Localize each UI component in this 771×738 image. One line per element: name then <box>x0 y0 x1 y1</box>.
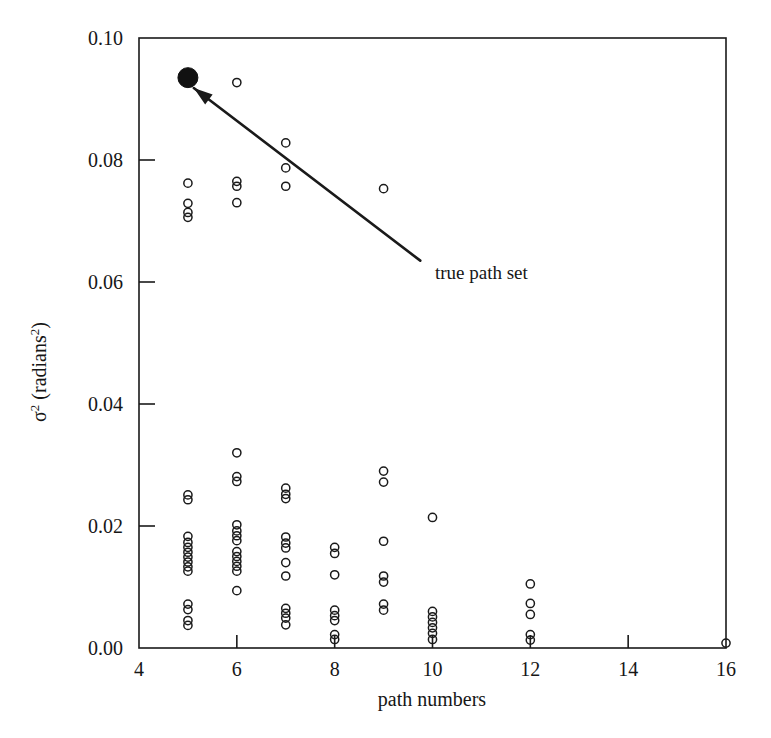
y-tick-label: 0.08 <box>88 149 123 171</box>
arrowhead-icon <box>194 88 213 104</box>
y-axis-ticks <box>139 160 155 526</box>
y-tick-label: 0.10 <box>88 27 123 49</box>
scatter-plot-figure: 46810121416 0.000.020.040.060.080.10 tru… <box>0 0 771 738</box>
data-point <box>184 179 192 187</box>
x-tick-label: 14 <box>618 658 638 680</box>
y-axis-title: σ2 (radians2) <box>27 322 51 422</box>
y-tick-label: 0.02 <box>88 515 123 537</box>
data-point <box>379 467 387 475</box>
data-point <box>184 199 192 207</box>
data-point <box>282 544 290 552</box>
data-point <box>428 513 436 521</box>
data-point <box>233 182 241 190</box>
data-point <box>233 78 241 86</box>
data-point <box>379 185 387 193</box>
data-point <box>184 496 192 504</box>
x-tick-label: 16 <box>716 658 736 680</box>
y-tick-label: 0.06 <box>88 271 123 293</box>
data-point <box>233 477 241 485</box>
data-point <box>233 567 241 575</box>
data-point <box>282 559 290 567</box>
data-point <box>233 449 241 457</box>
data-point <box>526 610 534 618</box>
data-points <box>178 68 730 648</box>
data-point <box>282 139 290 147</box>
annotation-line <box>194 88 420 261</box>
plot-frame <box>139 38 726 648</box>
y-axis-tick-labels: 0.000.020.040.060.080.10 <box>88 27 123 659</box>
data-point <box>184 605 192 613</box>
data-point <box>526 580 534 588</box>
data-point <box>282 572 290 580</box>
data-point <box>184 621 192 629</box>
data-point <box>233 587 241 595</box>
data-point <box>233 199 241 207</box>
data-point <box>184 213 192 221</box>
data-point <box>331 616 339 624</box>
data-point-true-path-set <box>178 68 198 88</box>
y-tick-label: 0.00 <box>88 637 123 659</box>
data-point <box>331 549 339 557</box>
svg-text:σ2 (radians2): σ2 (radians2) <box>27 322 51 422</box>
x-tick-label: 8 <box>330 658 340 680</box>
annotation-label: true path set <box>435 262 529 283</box>
data-point <box>282 164 290 172</box>
data-point <box>379 478 387 486</box>
data-point <box>379 537 387 545</box>
axes-box <box>139 38 726 648</box>
y-tick-label: 0.04 <box>88 393 123 415</box>
data-point <box>379 578 387 586</box>
x-tick-label: 4 <box>134 658 144 680</box>
data-point <box>233 537 241 545</box>
annotation-arrow: true path set <box>194 88 529 283</box>
data-point <box>282 182 290 190</box>
plot-canvas: 46810121416 0.000.020.040.060.080.10 tru… <box>0 0 771 738</box>
data-point <box>379 606 387 614</box>
x-axis-title: path numbers <box>378 688 487 711</box>
x-axis-tick-labels: 46810121416 <box>134 658 736 680</box>
data-point <box>526 599 534 607</box>
data-point <box>331 571 339 579</box>
x-tick-label: 10 <box>423 658 443 680</box>
x-tick-label: 12 <box>520 658 540 680</box>
x-tick-label: 6 <box>232 658 242 680</box>
